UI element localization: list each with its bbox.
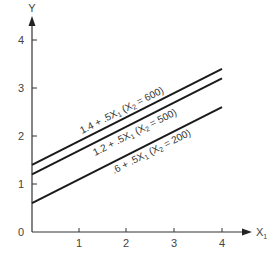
x-tick-label: 4 [219,237,225,249]
y-axis-arrow-icon [29,16,36,26]
chart: 1 2 3 4 1 2 3 4 0 Y X1 1.4 + .5X1 (X2 = … [0,0,279,259]
y-ticks: 1 2 3 4 0 [18,34,37,238]
line-x2-600 [32,69,222,165]
y-tick-label: 4 [18,34,24,46]
x-tick-label: 2 [123,237,129,249]
x-tick-label: 3 [171,237,177,249]
y-tick-label: 3 [18,82,24,94]
x-axis-arrow-icon [242,229,252,236]
x-ticks: 1 2 3 4 [76,228,225,249]
y-axis-label: Y [28,2,36,14]
y-tick-label: 2 [18,130,24,142]
x-tick-label: 1 [76,237,82,249]
y-tick-label: 1 [18,178,24,190]
line-x2-200 [32,107,222,203]
x-axis-label: X1 [256,226,267,240]
origin-label: 0 [18,226,24,238]
